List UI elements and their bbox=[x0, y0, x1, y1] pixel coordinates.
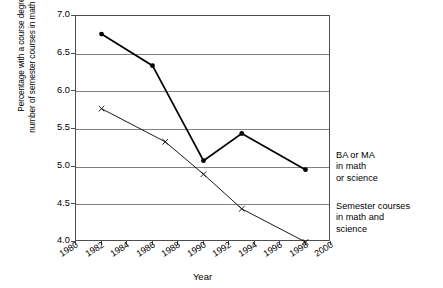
x-tick-label: 1998 bbox=[288, 240, 310, 258]
legend-ba-line1: BA or MA bbox=[336, 150, 378, 161]
x-axis-title: Year bbox=[0, 271, 405, 282]
x-tick-label: 1986 bbox=[135, 240, 157, 258]
legend-ba-line2: in math bbox=[336, 161, 378, 172]
x-tick-label: 1982 bbox=[84, 240, 106, 258]
x-tick-label: 2000 bbox=[313, 240, 335, 258]
x-tick-label: 1988 bbox=[160, 240, 182, 258]
legend-sem-line1: Semester courses bbox=[336, 201, 410, 212]
x-tick-label: 1996 bbox=[262, 240, 284, 258]
legend-sem-line3: science bbox=[336, 224, 410, 235]
legend-entry-ba-or-ma: BA or MA in math or science bbox=[336, 150, 378, 184]
x-axis-tick-labels: 1980198219841986198819901992199419961998… bbox=[0, 0, 443, 288]
legend-ba-line3: or science bbox=[336, 173, 378, 184]
x-tick-label: 1984 bbox=[109, 240, 131, 258]
legend-sem-line2: in math and bbox=[336, 212, 410, 223]
x-tick-label: 1994 bbox=[237, 240, 259, 258]
x-tick-label: 1990 bbox=[186, 240, 208, 258]
x-tick-label: 1980 bbox=[58, 240, 80, 258]
x-tick-label: 1992 bbox=[211, 240, 233, 258]
legend-entry-semester-courses: Semester courses in math and science bbox=[336, 201, 410, 235]
line-chart-figure: Percentage with a course degree and numb… bbox=[0, 0, 443, 288]
